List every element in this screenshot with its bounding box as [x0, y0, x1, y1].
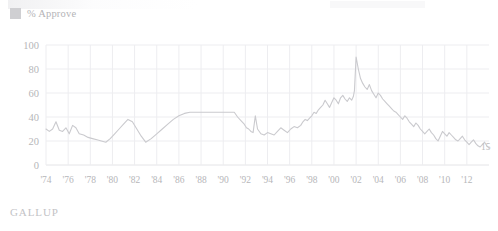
svg-text:'76: '76: [63, 175, 74, 185]
y-axis-tick-labels: 020406080100: [23, 40, 39, 171]
svg-text:'74: '74: [40, 175, 51, 185]
svg-text:'90: '90: [218, 175, 229, 185]
x-axis-tick-labels: '74'76'78'80'82'84'86'88'90'92'94'96'98'…: [40, 175, 472, 185]
gallup-approval-chart: % Approve 020406080100 '74'76'78'80'82'8…: [0, 0, 498, 231]
source-attribution: GALLUP: [10, 206, 59, 218]
svg-text:'82: '82: [129, 175, 140, 185]
plot-area: 020406080100 '74'76'78'80'82'84'86'88'90…: [0, 0, 498, 231]
svg-text:'10: '10: [439, 175, 450, 185]
svg-text:'02: '02: [350, 175, 361, 185]
svg-text:'86: '86: [173, 175, 184, 185]
svg-text:'08: '08: [417, 175, 428, 185]
svg-text:20: 20: [29, 136, 40, 147]
svg-text:'96: '96: [284, 175, 295, 185]
svg-text:80: 80: [29, 64, 40, 75]
svg-text:'00: '00: [328, 175, 339, 185]
series-end-value-label: 15: [481, 142, 491, 152]
svg-text:'88: '88: [195, 175, 206, 185]
svg-text:'98: '98: [306, 175, 317, 185]
vertical-gridlines: [46, 45, 467, 165]
svg-text:'84: '84: [151, 175, 162, 185]
svg-text:'92: '92: [240, 175, 251, 185]
svg-text:40: 40: [29, 112, 40, 123]
svg-text:'12: '12: [461, 175, 472, 185]
svg-text:'94: '94: [262, 175, 273, 185]
svg-text:100: 100: [23, 40, 39, 51]
svg-text:60: 60: [29, 88, 40, 99]
svg-text:'78: '78: [85, 175, 96, 185]
chart-svg: 020406080100 '74'76'78'80'82'84'86'88'90…: [0, 0, 498, 231]
svg-text:'80: '80: [107, 175, 118, 185]
svg-text:0: 0: [34, 160, 39, 171]
svg-text:'06: '06: [395, 175, 406, 185]
svg-text:'04: '04: [373, 175, 384, 185]
